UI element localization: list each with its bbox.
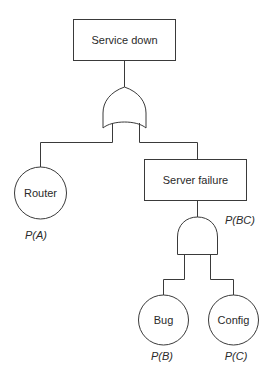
connector-or-to-server-failure <box>140 143 198 160</box>
basic-event-router: Router P(A) <box>15 167 67 241</box>
and-gate-symbol <box>178 217 218 255</box>
router-label: Router <box>24 187 57 199</box>
config-label: Config <box>218 314 250 326</box>
top-event-service-down: Service down <box>74 20 176 61</box>
intermediate-event-label: Server failure <box>163 174 228 186</box>
connector-and-to-bug <box>164 255 185 296</box>
connector-and-to-config <box>211 255 234 296</box>
or-gate <box>103 87 146 128</box>
intermediate-event-server-failure: Server failure <box>145 160 247 201</box>
basic-event-config: Config P(C) <box>209 295 259 362</box>
top-event-label: Service down <box>91 34 157 46</box>
fault-tree-diagram: Service down Router P(A) Server failure … <box>0 0 275 383</box>
bug-label: Bug <box>154 314 174 326</box>
and-gate-probability: P(BC) <box>225 214 255 226</box>
bug-probability: P(B) <box>151 350 173 362</box>
basic-event-bug: Bug P(B) <box>139 295 189 362</box>
connector-or-to-router <box>41 143 113 168</box>
or-gate-symbol <box>103 87 146 128</box>
and-gate <box>178 217 218 255</box>
router-probability: P(A) <box>25 229 47 241</box>
config-probability: P(C) <box>225 350 248 362</box>
